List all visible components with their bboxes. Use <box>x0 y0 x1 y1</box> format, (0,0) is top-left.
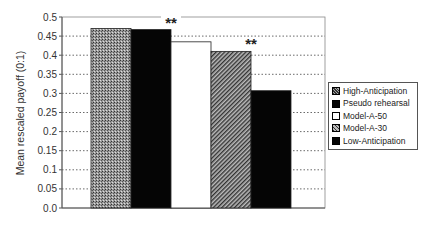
legend-label: Low-Anticipation <box>343 135 405 147</box>
legend-swatch-icon <box>332 137 340 145</box>
bar-high-anticipation <box>91 28 131 208</box>
bar-low-anticipation <box>251 91 291 208</box>
bars <box>91 28 291 208</box>
y-tick-label: 0.35 <box>38 69 58 80</box>
legend-label: High-Anticipation <box>343 85 407 97</box>
y-tick-label: 0.1 <box>43 164 57 175</box>
bar-model-a-30 <box>211 51 251 208</box>
legend-item: Pseudo rehearsal <box>332 97 414 109</box>
legend-label: Pseudo rehearsal <box>343 97 410 109</box>
legend-swatch-icon <box>332 87 340 95</box>
y-tick-label: 0.4 <box>43 50 57 61</box>
y-tick-label: 0.15 <box>38 145 58 156</box>
y-tick-label: 0.0 <box>43 203 57 214</box>
y-tick-label: 0.05 <box>38 183 58 194</box>
legend-label: Model-A-50 <box>343 110 387 122</box>
y-tick-label: 0.2 <box>43 126 57 137</box>
legend-item: Model-A-30 <box>332 122 414 134</box>
y-tick-label: 0.45 <box>38 31 58 42</box>
significance-marker: ** <box>245 35 257 52</box>
legend-item: High-Anticipation <box>332 85 414 97</box>
y-tick-label: 0.25 <box>38 107 58 118</box>
legend: High-AnticipationPseudo rehearsalModel-A… <box>328 82 418 150</box>
bar-pseudo-rehearsal <box>131 30 171 208</box>
y-axis-label: Mean rescaled payoff (0:1) <box>14 51 26 176</box>
y-tick-label: 0.3 <box>43 88 57 99</box>
legend-swatch-icon <box>332 112 340 120</box>
legend-label: Model-A-30 <box>343 122 387 134</box>
legend-item: Low-Anticipation <box>332 135 414 147</box>
legend-swatch-icon <box>332 124 340 132</box>
legend-item: Model-A-50 <box>332 110 414 122</box>
bar-model-a-50 <box>171 42 211 208</box>
y-tick-label: 0.5 <box>43 12 57 23</box>
significance-marker: ** <box>165 14 177 31</box>
legend-swatch-icon <box>332 100 340 108</box>
